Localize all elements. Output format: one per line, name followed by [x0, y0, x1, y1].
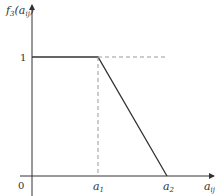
origin-label: 0 [18, 180, 24, 191]
x-tick-label-a1: a1 [93, 180, 104, 194]
x-axis-label: aij [204, 180, 216, 194]
function-curve [32, 57, 167, 176]
x-tick-label-a2: a2 [163, 180, 175, 194]
y-axis-label: f3(aij) [5, 4, 34, 18]
y-tick-label-1: 1 [20, 52, 26, 63]
membership-function-diagram: f3(aij) 1 0 a1 a2 aij [0, 0, 219, 196]
